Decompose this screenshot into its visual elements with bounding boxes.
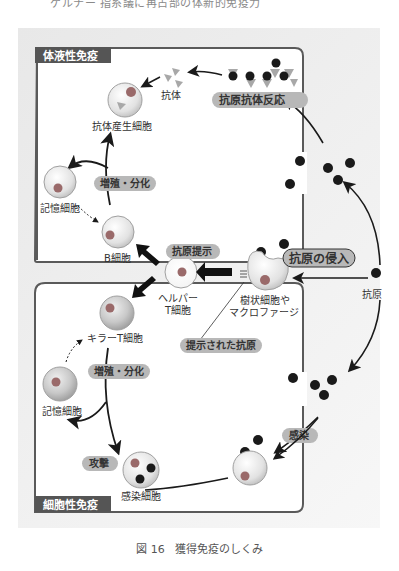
- b-cell: [102, 216, 134, 248]
- killer-t-label: キラーT細胞: [87, 332, 143, 344]
- antigen-presentation-badge: 抗原提示: [172, 245, 212, 257]
- helper-t-label-1: ヘルパー: [158, 293, 198, 304]
- target-cell: [233, 451, 267, 485]
- memory-t-cell: [43, 367, 77, 401]
- infected-cell-label: 感染細胞: [121, 490, 161, 502]
- b-cell-label: B細胞: [104, 252, 131, 264]
- proliferation-cellular-badge: 増殖・分化: [94, 365, 144, 377]
- proliferation-humoral-badge: 増殖・分化: [100, 177, 150, 189]
- presented-antigen-badge: 提示された抗原: [186, 339, 256, 351]
- figure-number: 図 16: [136, 543, 165, 556]
- plasma-cell-label: 抗体産生細胞: [92, 120, 152, 132]
- figure-title: 獲得免疫のしくみ: [175, 543, 263, 556]
- ag-ab-reaction-badge: 抗原抗体反応: [219, 93, 285, 107]
- helper-t-cell: [165, 256, 197, 288]
- humoral-label: 体液性免疫: [43, 49, 98, 63]
- infected-cell: [123, 452, 159, 488]
- dendritic-label-2: マクロファージ: [229, 307, 299, 318]
- figure-caption: 図 16獲得免疫のしくみ: [0, 540, 399, 556]
- memory-t-label: 記憶細胞: [42, 405, 82, 417]
- antigen-label: 抗原: [362, 288, 382, 300]
- plasma-cell: [108, 83, 142, 117]
- dendritic-label-1: 樹状細胞や: [240, 294, 290, 306]
- killer-t-cell: [100, 296, 134, 330]
- immune-diagram: 体液性免疫 細胞性免疫 抗原抗体反応: [0, 0, 399, 571]
- memory-b-cell: [44, 166, 76, 198]
- helper-t-label-2: T細胞: [164, 304, 191, 316]
- memory-b-label: 記憶細胞: [40, 202, 80, 214]
- antigen-invasion-badge: 抗原の侵入: [289, 251, 349, 266]
- cellular-label: 細胞性免疫: [43, 498, 98, 512]
- antibody-label: 抗体: [161, 89, 181, 101]
- attack-badge: 攻撃: [89, 457, 109, 469]
